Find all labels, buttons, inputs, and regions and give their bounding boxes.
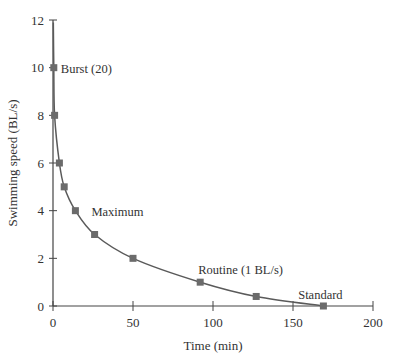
annotation-label: Standard [298,288,343,302]
square-marker [253,293,260,300]
y-tick-label: 6 [38,156,45,171]
square-marker [197,279,204,286]
y-tick-label: 2 [38,251,45,266]
y-tick-label: 4 [38,203,45,218]
axes: 024681012050100150200 [31,13,383,331]
annotation-label: Maximum [91,205,143,219]
square-marker [72,207,79,214]
data-markers [50,64,327,309]
y-tick-label: 12 [31,13,44,28]
y-tick-label: 10 [31,60,44,75]
y-tick-label: 8 [38,108,45,123]
y-tick-label: 0 [38,299,45,314]
annotation-label: Burst (20) [61,62,112,76]
annotations: Burst (20)MaximumRoutine (1 BL/s)Standar… [61,62,344,302]
x-axis-title: Time (min) [183,338,242,353]
x-tick-label: 50 [127,315,140,330]
square-marker [56,160,63,167]
square-marker [50,64,57,71]
square-marker [51,112,58,119]
x-tick-label: 200 [363,315,383,330]
x-tick-label: 0 [50,315,57,330]
square-marker [130,255,137,262]
annotation-label: Routine (1 BL/s) [198,263,283,277]
x-tick-label: 150 [283,315,303,330]
square-marker [320,303,327,310]
chart: 024681012050100150200 Burst (20)MaximumR… [0,0,394,358]
y-axis-title: Swimming speed (BL/s) [5,99,20,226]
x-tick-label: 100 [203,315,223,330]
square-marker [91,231,98,238]
square-marker [61,183,68,190]
